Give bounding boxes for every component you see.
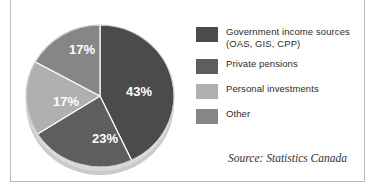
legend-item-private-pensions[interactable]: Private pensions [196,58,361,74]
legend-label-government-income-sources: Government income sources (OAS, GIS, CPP… [226,26,350,49]
legend-label-other: Other [226,108,250,120]
legend-label-line2: (OAS, GIS, CPP) [226,38,350,50]
legend-label-line1: Government income sources [226,26,350,38]
pie-slice-value-label: 23% [92,131,118,146]
pie-chart: 43%23%17%17% [22,12,178,178]
legend-item-other[interactable]: Other [196,108,361,124]
pie-chart-svg: 43%23%17%17% [22,12,178,178]
pie-slice-value-label: 17% [53,94,79,109]
pie-slice-value-label: 17% [69,42,95,57]
legend-swatch-private-pensions [196,59,218,74]
legend-swatch-government-income-sources [196,27,218,42]
legend-label-personal-investments: Personal investments [226,83,319,95]
legend-label-line1: Private pensions [226,58,298,70]
legend-swatch-other [196,109,218,124]
pie-slice-value-label: 43% [126,84,152,99]
pie-chart-figure: 43%23%17%17% Government income sources (… [0,0,378,191]
legend-item-government-income-sources[interactable]: Government income sources (OAS, GIS, CPP… [196,26,361,49]
legend-label-private-pensions: Private pensions [226,58,298,70]
legend: Government income sources (OAS, GIS, CPP… [196,26,361,133]
legend-swatch-personal-investments [196,84,218,99]
source-attribution: Source: Statistics Canada [228,152,347,164]
legend-label-line1: Personal investments [226,83,319,95]
legend-item-personal-investments[interactable]: Personal investments [196,83,361,99]
legend-label-line1: Other [226,108,250,120]
